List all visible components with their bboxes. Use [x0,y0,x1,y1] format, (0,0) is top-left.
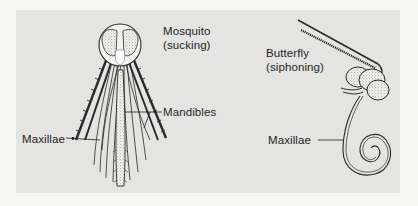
butterfly-palps [341,88,363,94]
mosquito-drawing [66,24,166,186]
butterfly-drawing [298,20,390,175]
butterfly-proboscis [343,96,390,175]
butterfly-maxillae-label: Maxillae [268,133,311,147]
butterfly-subtitle: (siphoning) [266,60,324,74]
butterfly-title: Butterfly [266,46,309,60]
mandibles-label: Mandibles [163,105,216,119]
mosquito-subtitle: (sucking) [163,38,211,52]
mosquito-maxillae-leader-line [66,138,100,140]
mosquito-maxillae-label: Maxillae [22,132,65,146]
mosquito-left-palp [76,58,112,140]
mosquito-title: Mosquito [163,24,210,38]
mosquito-head [99,24,141,66]
mosquito-labium [116,70,125,186]
